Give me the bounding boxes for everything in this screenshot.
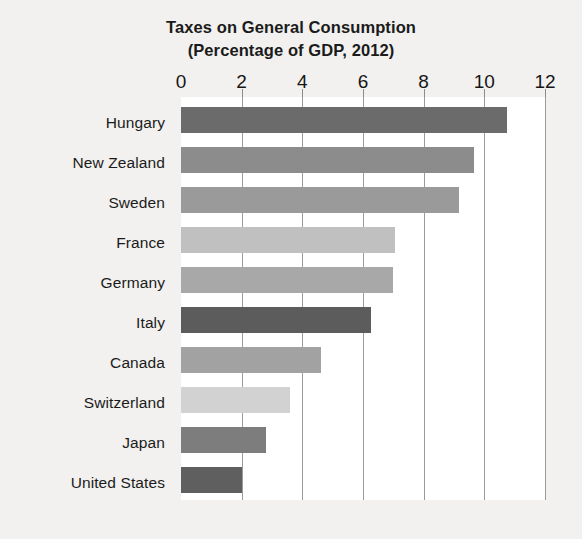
y-category-label-united-states: United States bbox=[71, 463, 165, 503]
y-category-label-japan: Japan bbox=[122, 423, 165, 463]
y-category-label-italy: Italy bbox=[136, 303, 165, 343]
y-category-label-germany: Germany bbox=[101, 263, 165, 303]
y-category-label-new-zealand: New Zealand bbox=[73, 143, 165, 183]
bar-japan bbox=[181, 427, 266, 453]
bar-canada bbox=[181, 347, 321, 373]
y-category-label-hungary: Hungary bbox=[106, 103, 165, 143]
gridline-12 bbox=[545, 97, 546, 500]
bar-united-states bbox=[181, 467, 242, 493]
bar-hungary bbox=[181, 107, 507, 133]
bar-new-zealand bbox=[181, 147, 474, 173]
chart-title-line-1: Taxes on General Consumption bbox=[0, 16, 582, 39]
y-category-label-france: France bbox=[116, 223, 165, 263]
bar-france bbox=[181, 227, 395, 253]
chart-title: Taxes on General Consumption (Percentage… bbox=[0, 16, 582, 62]
bar-italy bbox=[181, 307, 371, 333]
chart-title-line-2: (Percentage of GDP, 2012) bbox=[0, 39, 582, 62]
bar-germany bbox=[181, 267, 393, 293]
y-category-label-switzerland: Switzerland bbox=[84, 383, 165, 423]
y-category-label-canada: Canada bbox=[110, 343, 165, 383]
plot-area bbox=[181, 97, 545, 500]
chart-figure: Taxes on General Consumption (Percentage… bbox=[0, 0, 582, 539]
y-category-label-sweden: Sweden bbox=[108, 183, 165, 223]
bar-sweden bbox=[181, 187, 459, 213]
y-axis-category-labels: HungaryNew ZealandSwedenFranceGermanyIta… bbox=[0, 100, 174, 500]
gridline-10 bbox=[484, 97, 485, 500]
bar-switzerland bbox=[181, 387, 290, 413]
